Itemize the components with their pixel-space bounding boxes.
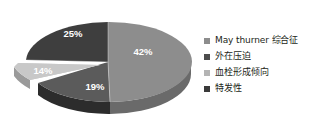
legend-swatch-icon bbox=[204, 70, 210, 76]
pie-plot-area: 42% 19% 14% 25% bbox=[0, 0, 200, 132]
slice-label-may-thurner: 42% bbox=[133, 46, 153, 57]
legend-item-idiopathic[interactable]: 特发性 bbox=[201, 81, 312, 96]
slice-label-idiopathic: 25% bbox=[63, 28, 83, 39]
legend-swatch-icon bbox=[204, 86, 210, 92]
legend-swatch-icon bbox=[204, 54, 210, 60]
pie-chart-figure: 42% 19% 14% 25% May thurner 综合征 外在压迫 血栓形… bbox=[0, 0, 312, 132]
legend-item-external-compression[interactable]: 外在压迫 bbox=[201, 49, 312, 64]
legend-swatch-icon bbox=[204, 38, 210, 44]
legend-item-label: May thurner 综合征 bbox=[215, 33, 298, 48]
legend-item-label: 外在压迫 bbox=[215, 49, 251, 64]
slice-label-external-compression: 19% bbox=[85, 81, 105, 92]
legend-item-label: 特发性 bbox=[215, 81, 242, 96]
legend-item-label: 血栓形成倾向 bbox=[215, 65, 268, 80]
chart-legend: May thurner 综合征 外在压迫 血栓形成倾向 特发性 bbox=[201, 33, 312, 96]
legend-item-thrombophilia[interactable]: 血栓形成倾向 bbox=[201, 65, 312, 80]
legend-item-may-thurner[interactable]: May thurner 综合征 bbox=[201, 33, 312, 48]
slice-label-thrombophilia: 14% bbox=[33, 65, 53, 76]
pie-chart-svg: 42% 19% 14% 25% bbox=[0, 0, 200, 132]
